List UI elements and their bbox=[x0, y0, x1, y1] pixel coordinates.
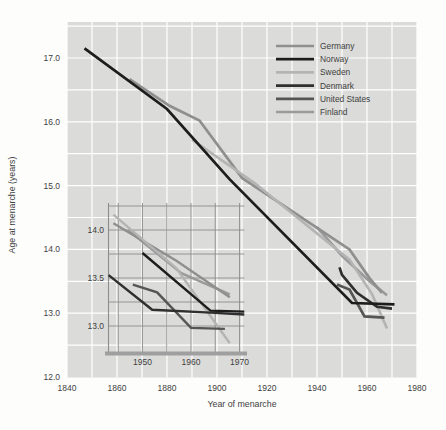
x-tick-label: 1880 bbox=[158, 383, 177, 393]
inset-x-tick-labels: 195019601970 bbox=[133, 357, 249, 367]
y-tick-label: 17.0 bbox=[43, 53, 60, 63]
y-tick-label: 15.0 bbox=[43, 181, 60, 191]
legend-label: Norway bbox=[320, 54, 349, 64]
menarche-secular-trend-figure: 17.016.015.014.013.012.01840186018801900… bbox=[0, 0, 446, 430]
main-x-tick-labels: 18401860188019001920194019601980 bbox=[58, 383, 427, 393]
y-tick-label: 13.0 bbox=[43, 308, 60, 318]
x-tick-label: 1960 bbox=[358, 383, 377, 393]
legend-label: Denmark bbox=[320, 81, 355, 91]
menarche-chart-canvas: 17.016.015.014.013.012.01840186018801900… bbox=[0, 0, 446, 430]
y-tick-label: 12.0 bbox=[43, 372, 60, 382]
inset-x-tick-label: 1960 bbox=[182, 357, 201, 367]
legend-label: United States bbox=[320, 94, 370, 104]
main-y-tick-labels: 17.016.015.014.013.012.0 bbox=[43, 53, 60, 382]
y-tick-label: 16.0 bbox=[43, 117, 60, 127]
inset-y-tick-label: 14.0 bbox=[87, 225, 104, 235]
x-tick-label: 1940 bbox=[308, 383, 327, 393]
x-tick-label: 1840 bbox=[58, 383, 77, 393]
inset-x-tick-label: 1970 bbox=[230, 357, 249, 367]
y-axis-title: Age at menarche (years) bbox=[7, 157, 17, 254]
x-axis-title: Year of menarche bbox=[207, 399, 276, 409]
inset-x-tick-label: 1950 bbox=[133, 357, 152, 367]
legend-label: Germany bbox=[320, 41, 355, 51]
y-tick-label: 14.0 bbox=[43, 244, 60, 254]
x-tick-label: 1900 bbox=[208, 383, 227, 393]
legend-label: Finland bbox=[320, 107, 348, 117]
x-tick-label: 1920 bbox=[258, 383, 277, 393]
x-tick-label: 1980 bbox=[408, 383, 427, 393]
inset-y-tick-label: 13.0 bbox=[87, 321, 104, 331]
legend-label: Sweden bbox=[320, 67, 351, 77]
inset-y-tick-label: 13.5 bbox=[87, 273, 104, 283]
x-tick-label: 1860 bbox=[108, 383, 127, 393]
